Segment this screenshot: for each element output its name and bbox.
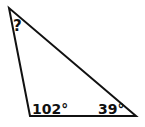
angle-label-bottom-left: 102° [32,101,68,117]
triangle-shape [9,8,136,116]
triangle-diagram: ? 102° 39° [0,0,145,127]
angle-label-bottom-right: 39° [98,101,124,117]
angle-label-top: ? [13,17,22,35]
